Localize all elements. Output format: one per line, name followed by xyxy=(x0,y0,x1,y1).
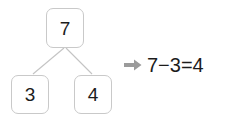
arrow-right-icon xyxy=(124,58,142,72)
part-node-left[interactable]: 3 xyxy=(11,75,49,114)
part-node-right[interactable]: 4 xyxy=(74,75,112,114)
whole-node[interactable]: 7 xyxy=(46,8,84,48)
connector-line-left xyxy=(33,48,64,74)
connector-line-right xyxy=(66,48,92,74)
equation-text: 7−3=4 xyxy=(147,55,204,75)
equation-group: 7−3=4 xyxy=(124,52,220,78)
part-node-right-value: 4 xyxy=(88,85,99,104)
whole-node-value: 7 xyxy=(60,19,71,38)
part-node-left-value: 3 xyxy=(25,85,36,104)
number-bond-worksheet: 7 3 4 7−3=4 xyxy=(0,0,225,122)
